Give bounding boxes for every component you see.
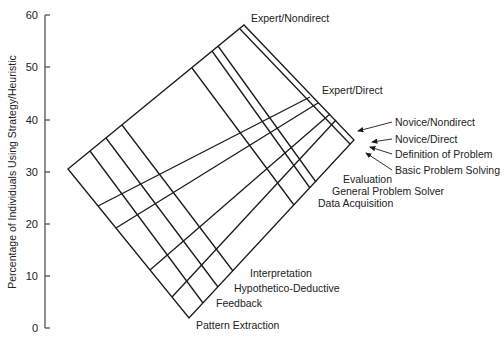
tick-0: 0 bbox=[32, 322, 38, 334]
arrow-definition-of-problem bbox=[370, 147, 392, 154]
arrow-basic-problem-solving bbox=[366, 153, 392, 170]
label-expert-direct: Expert/Direct bbox=[322, 84, 383, 96]
label-general-problem-solver: General Problem Solver bbox=[332, 185, 445, 197]
label-evaluation: Evaluation bbox=[343, 173, 392, 185]
diagram-canvas: 0 10 20 30 40 50 60 Percentage of Indivi… bbox=[0, 0, 504, 343]
tick-10: 10 bbox=[26, 270, 38, 282]
arrow-novice-direct bbox=[372, 139, 392, 142]
labels: Expert/Nondirect Expert/Direct Novice/No… bbox=[196, 12, 500, 331]
label-interpretation: Interpretation bbox=[250, 267, 312, 279]
label-basic-problem-solving: Basic Problem Solving bbox=[395, 164, 500, 176]
y-axis-label: Percentage of Individuals Using Strategy… bbox=[6, 55, 18, 288]
label-novice-direct: Novice/Direct bbox=[395, 133, 458, 145]
label-hypothetico-deductive: Hypothetico-Deductive bbox=[234, 282, 340, 294]
tick-30: 30 bbox=[26, 166, 38, 178]
tick-20: 20 bbox=[26, 218, 38, 230]
label-data-acquisition: Data Acquisition bbox=[318, 197, 393, 209]
label-feedback: Feedback bbox=[216, 297, 263, 309]
label-novice-nondirect: Novice/Nondirect bbox=[395, 116, 475, 128]
tick-40: 40 bbox=[26, 114, 38, 126]
label-pattern-extraction: Pattern Extraction bbox=[196, 319, 280, 331]
label-expert-nondirect: Expert/Nondirect bbox=[251, 12, 329, 24]
tick-60: 60 bbox=[26, 9, 38, 21]
label-definition-of-problem: Definition of Problem bbox=[395, 148, 493, 160]
tick-50: 50 bbox=[26, 61, 38, 73]
y-axis: 0 10 20 30 40 50 60 Percentage of Indivi… bbox=[6, 9, 50, 334]
pointer-arrows bbox=[358, 122, 392, 170]
arrow-novice-nondirect bbox=[358, 122, 392, 131]
